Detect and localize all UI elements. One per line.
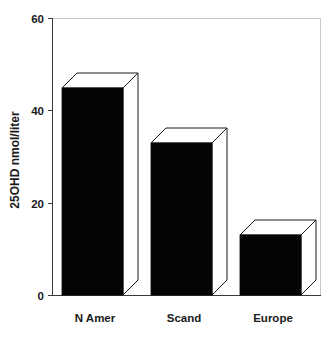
y-tick-label-40: 40 — [31, 105, 44, 117]
bar-front-face-n-amer — [62, 88, 123, 295]
y-tick-label-0: 0 — [38, 290, 44, 302]
y-tick-label-60: 60 — [31, 13, 44, 25]
bar-chart-figure: 60 40 20 0 25OHD nmol/liter N Amer Scand… — [0, 0, 336, 337]
y-tick-label-20: 20 — [31, 198, 44, 210]
x-axis-label-europe: Europe — [253, 312, 293, 324]
bar-side-face-scand — [212, 128, 227, 295]
y-axis-title: 25OHD nmol/liter — [8, 111, 22, 209]
bar-group-n-amer[interactable] — [62, 73, 138, 295]
chart-canvas: 60 40 20 0 25OHD nmol/liter N Amer Scand… — [0, 0, 336, 337]
bar-front-face-scand — [151, 143, 212, 295]
bar-group-scand[interactable] — [151, 128, 227, 295]
y-axis-ticks — [48, 19, 53, 296]
bar-group-europe[interactable] — [240, 220, 316, 295]
bar-front-face-europe — [240, 235, 301, 295]
bar-side-face-n-amer — [123, 73, 138, 295]
x-axis-label-n-amer: N Amer — [75, 312, 116, 324]
x-axis-label-scand: Scand — [167, 312, 202, 324]
